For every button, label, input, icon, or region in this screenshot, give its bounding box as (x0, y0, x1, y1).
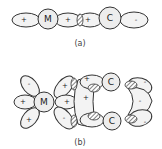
sign-center: + (83, 94, 89, 102)
sign-m-right: + (64, 98, 70, 106)
atom-c-label: C (107, 13, 113, 23)
sign-c-left: + (85, 16, 91, 24)
overlap-upper-right (125, 81, 137, 89)
sign-m-right: + (65, 16, 71, 24)
part-b-pi-backbonding: - + + + + - + + - - - M (14, 72, 154, 147)
sign-m-lower-left: + (26, 116, 32, 124)
overlap-upper-left (71, 78, 77, 90)
atom-m-label: M (44, 14, 52, 24)
sign-m-left: + (21, 16, 27, 24)
caption-a: (a) (74, 39, 85, 48)
overlap-lower-right (125, 115, 137, 123)
part-a-sigma-bond: + + + - M C (a) (12, 7, 148, 48)
overlap-upper-mid (88, 84, 100, 92)
overlap-region (77, 14, 83, 26)
atom-c-upper-label: C (108, 77, 114, 87)
caption-b: (b) (74, 138, 85, 147)
sign-m-upper-right: + (62, 82, 68, 90)
sign-c-upper-left: + (84, 75, 90, 83)
atom-c-lower-label: C (109, 116, 115, 126)
sign-m-left: + (20, 98, 26, 106)
orbital-diagram: + + + - M C (a) - + + + + - (0, 0, 162, 149)
overlap-lower-mid (88, 112, 100, 120)
overlap-lower-left (71, 115, 77, 127)
atom-m-b-label: M (40, 97, 48, 107)
